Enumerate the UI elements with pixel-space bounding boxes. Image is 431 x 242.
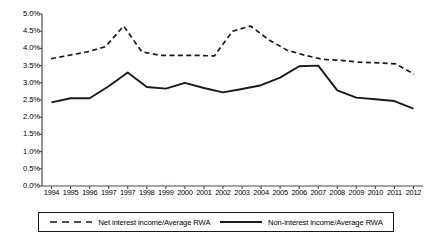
x-axis-tick-label: 2001 (196, 188, 211, 198)
x-axis-tick-label: 2004 (253, 188, 268, 198)
x-axis-tick-label: 2000 (177, 188, 192, 198)
x-axis-tick-label: 2010 (368, 188, 383, 198)
legend-entry-non-interest-income: Non-interest income/Average RWA (219, 218, 383, 227)
axis-lines (42, 14, 423, 186)
series-line-non-interest-income (52, 66, 414, 109)
x-axis-tick-label: 2011 (387, 188, 402, 198)
legend-label-net-interest-income: Net interest income/Average RWA (98, 218, 210, 227)
chart-legend: Net interest income/Average RWA Non-inte… (38, 212, 394, 232)
series-line-net-interest-income (51, 26, 414, 74)
x-axis-tick-label: 2009 (349, 188, 364, 198)
solid-line-swatch-icon (219, 218, 263, 226)
chart-canvas (0, 0, 431, 242)
x-axis-tick-label: 2005 (272, 188, 287, 198)
x-axis-tick-label: 2002 (215, 188, 230, 198)
x-axis-tick-label: 1998 (139, 188, 154, 198)
x-axis-tick-label: 1997 (101, 188, 116, 198)
x-axis-tick-label: 1996 (82, 188, 97, 198)
x-axis-tick-label: 2012 (406, 188, 421, 198)
x-axis-tick-label: 2006 (291, 188, 306, 198)
x-axis-tick-label: 1995 (63, 188, 78, 198)
x-axis-tick-label: 2003 (234, 188, 249, 198)
x-axis-tick-label: 2007 (310, 188, 325, 198)
data-series-group (51, 26, 414, 109)
x-axis-tick-labels: 1994199519961997199719981999200020012002… (42, 188, 423, 200)
legend-entry-net-interest-income: Net interest income/Average RWA (49, 218, 210, 227)
x-axis-tick-label: 1994 (44, 188, 59, 198)
x-axis-tick-label: 2008 (330, 188, 345, 198)
line-chart: 5.0%4.5%4.0%3.5%3.0%2.5%2.0%1.5%1.0%0.5%… (0, 0, 431, 242)
dashed-line-swatch-icon (49, 218, 93, 226)
x-axis-tick-label: 1999 (158, 188, 173, 198)
legend-label-non-interest-income: Non-interest income/Average RWA (268, 218, 383, 227)
x-axis-tick-label: 1997 (120, 188, 135, 198)
